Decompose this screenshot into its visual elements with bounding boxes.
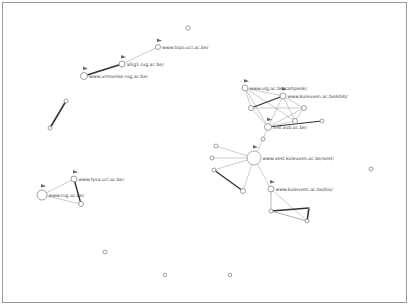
graph-node[interactable]: www.kuleuven.ac.be/bio/ (268, 180, 333, 192)
graph-node[interactable] (293, 119, 298, 124)
flag-icon (73, 170, 78, 175)
graph-node[interactable] (269, 209, 273, 213)
flag-icon (121, 55, 126, 60)
node-label: www.urmoelee.rug.ac.be/ (89, 74, 148, 79)
graph-node[interactable]: www.topo.ucl.ac.be/ (156, 39, 209, 50)
node-circle[interactable] (302, 106, 307, 111)
node-circle[interactable] (163, 273, 167, 277)
node-circle[interactable] (103, 250, 107, 254)
node-circle[interactable] (280, 93, 286, 99)
node-circle[interactable] (320, 119, 324, 123)
node-label: inst.vub.ac.be/ (273, 125, 307, 130)
flag-icon (83, 67, 88, 72)
graph-node[interactable] (186, 26, 190, 30)
node-circle[interactable] (369, 167, 373, 171)
graph-node[interactable] (163, 273, 167, 277)
node-circle[interactable] (242, 85, 248, 91)
graph-node[interactable]: www.rug.ac.be/ (37, 184, 85, 200)
flag-icon (41, 184, 46, 189)
node-circle[interactable] (186, 26, 190, 30)
node-circle[interactable] (308, 207, 310, 209)
node-circle[interactable] (64, 99, 68, 103)
graph-node[interactable] (214, 144, 218, 148)
flag-icon (244, 79, 249, 84)
node-circle[interactable] (214, 144, 218, 148)
node-circle[interactable] (249, 106, 254, 111)
node-label: www.kuleuven.ac.be/bio/ (276, 187, 334, 192)
graph-edge (214, 170, 243, 191)
graph-node[interactable] (369, 167, 373, 171)
graph-node[interactable] (320, 119, 324, 123)
flag-icon (253, 145, 258, 150)
node-circle[interactable] (293, 119, 298, 124)
node-circle[interactable] (247, 151, 261, 165)
graph-edge (74, 179, 81, 204)
node-circle[interactable] (81, 73, 88, 80)
node-layer: www.topo.ucl.ac.be/allig1.rug.ac.be/www.… (37, 26, 373, 277)
node-circle[interactable] (212, 168, 216, 172)
graph-node[interactable] (103, 250, 107, 254)
graph-node[interactable] (64, 99, 68, 103)
node-label: www.fysa.ucl.ac.be/ (79, 177, 125, 182)
node-circle[interactable] (269, 209, 273, 213)
graph-node[interactable]: allig1.rug.ac.be/ (119, 55, 164, 67)
graph-node[interactable]: www.fysa.ucl.ac.be/ (71, 170, 124, 182)
graph-node[interactable] (261, 137, 265, 141)
graph-node[interactable]: www.urmoelee.rug.ac.be/ (81, 67, 149, 80)
node-circle[interactable] (71, 176, 77, 182)
flag-icon (157, 39, 162, 44)
node-label: www.ulg.ac.be/campeok/ (250, 86, 308, 91)
node-circle[interactable] (79, 202, 84, 207)
network-graph[interactable]: www.topo.ucl.ac.be/allig1.rug.ac.be/www.… (0, 0, 410, 306)
node-circle[interactable] (305, 219, 309, 223)
node-circle[interactable] (268, 186, 274, 192)
node-circle[interactable] (48, 126, 52, 130)
graph-edge (50, 101, 66, 128)
graph-node[interactable] (308, 207, 310, 209)
graph-node[interactable] (228, 273, 232, 277)
node-circle[interactable] (265, 124, 272, 131)
graph-node[interactable] (48, 126, 52, 130)
graph-node[interactable] (305, 219, 309, 223)
graph-node[interactable]: inst.vub.ac.be/ (265, 118, 308, 131)
node-circle[interactable] (241, 189, 246, 194)
graph-node[interactable] (212, 168, 216, 172)
graph-node[interactable]: www.vest.kuleuven.ac.be/vest/ (247, 145, 334, 165)
graph-node[interactable] (210, 156, 214, 160)
node-label: www.vest.kuleuven.ac.be/vest/ (263, 156, 335, 161)
node-label: www.topo.ucl.ac.be/ (162, 45, 209, 50)
graph-edge (271, 208, 309, 211)
node-circle[interactable] (261, 137, 265, 141)
node-circle[interactable] (37, 190, 47, 200)
node-circle[interactable] (210, 156, 214, 160)
graph-node[interactable]: www.ulg.ac.be/campeok/ (242, 79, 307, 91)
node-circle[interactable] (119, 61, 125, 67)
node-circle[interactable] (156, 45, 161, 50)
graph-node[interactable] (79, 202, 84, 207)
node-label: allig1.rug.ac.be/ (127, 62, 165, 67)
node-label: www.kuleuven.ac.be/kbib/ (288, 94, 349, 99)
node-circle[interactable] (228, 273, 232, 277)
graph-node[interactable] (302, 106, 307, 111)
graph-node[interactable] (241, 189, 246, 194)
flag-icon (270, 180, 275, 185)
graph-node[interactable] (249, 106, 254, 111)
node-label: www.rug.ac.be/ (49, 193, 85, 198)
